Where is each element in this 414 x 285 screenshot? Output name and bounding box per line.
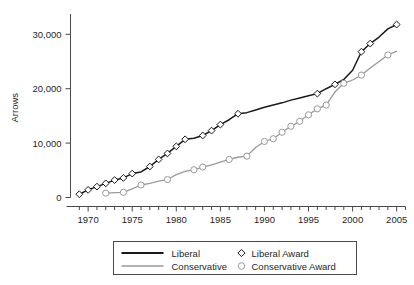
marker-liberal-award bbox=[314, 90, 321, 97]
marker-conservative-award bbox=[279, 129, 285, 135]
x-tick-label: 1975 bbox=[122, 214, 143, 225]
data-markers bbox=[76, 21, 400, 198]
marker-liberal-award bbox=[129, 170, 136, 177]
y-tick-label: 0 bbox=[56, 192, 61, 203]
data-series bbox=[79, 25, 396, 195]
legend-label: Conservative Award bbox=[252, 261, 336, 272]
marker-liberal-award bbox=[199, 132, 206, 139]
marker-conservative-award bbox=[164, 176, 170, 182]
marker-conservative-award bbox=[297, 118, 303, 124]
x-tick-label: 2000 bbox=[342, 214, 363, 225]
y-tick-label: 10,000 bbox=[32, 138, 61, 149]
chart-legend: LiberalLiberal AwardConservativeConserva… bbox=[114, 242, 357, 275]
x-axis-ticks: 19701975198019851990199520002005 bbox=[78, 207, 408, 225]
chart-container: 010,00020,00030,000 19701975198019851990… bbox=[0, 0, 414, 285]
marker-liberal-award bbox=[76, 191, 83, 198]
x-tick-label: 1985 bbox=[210, 214, 231, 225]
marker-liberal-award bbox=[332, 81, 339, 88]
marker-conservative-award bbox=[261, 138, 267, 144]
marker-conservative-award bbox=[244, 153, 250, 159]
marker-conservative-award bbox=[305, 112, 311, 118]
y-axis-title: Arrows bbox=[9, 93, 20, 123]
series-line-liberal bbox=[79, 25, 396, 195]
marker-conservative-award bbox=[358, 72, 364, 78]
marker-conservative-award bbox=[226, 156, 232, 162]
marker-liberal-award bbox=[111, 177, 118, 184]
marker-liberal-award bbox=[120, 175, 127, 182]
axes bbox=[67, 14, 406, 207]
marker-liberal-award bbox=[85, 186, 92, 193]
marker-liberal-award bbox=[94, 183, 101, 190]
marker-conservative-award bbox=[385, 52, 391, 58]
x-tick-label: 1970 bbox=[78, 214, 99, 225]
marker-conservative-award bbox=[200, 164, 206, 170]
marker-conservative-award bbox=[288, 123, 294, 129]
legend-item-conservative-award: Conservative Award bbox=[238, 261, 336, 272]
x-tick-label: 1995 bbox=[298, 214, 319, 225]
marker-conservative-award bbox=[103, 190, 109, 196]
y-axis-title-label: Arrows bbox=[9, 93, 20, 123]
marker-conservative-award bbox=[314, 106, 320, 112]
marker-liberal-award bbox=[393, 21, 400, 28]
y-axis-ticks: 010,00020,00030,000 bbox=[32, 29, 70, 203]
legend-label: Conservative bbox=[172, 261, 227, 272]
y-tick-label: 30,000 bbox=[32, 29, 61, 40]
x-tick-label: 2005 bbox=[386, 214, 407, 225]
legend-label: Liberal Award bbox=[252, 248, 309, 259]
arrows-line-chart: 010,00020,00030,000 19701975198019851990… bbox=[0, 0, 414, 285]
marker-conservative-award bbox=[138, 182, 144, 188]
x-tick-label: 1990 bbox=[254, 214, 275, 225]
marker-conservative-award bbox=[120, 189, 126, 195]
marker-conservative-award bbox=[341, 80, 347, 86]
marker-liberal-award bbox=[102, 180, 109, 187]
marker-conservative-award bbox=[191, 167, 197, 173]
marker-conservative-award bbox=[323, 102, 329, 108]
legend-label: Liberal bbox=[172, 248, 201, 259]
y-tick-label: 20,000 bbox=[32, 83, 61, 94]
legend-swatch-circle bbox=[238, 263, 245, 270]
series-line-conservative bbox=[106, 51, 397, 193]
marker-conservative-award bbox=[270, 136, 276, 142]
x-tick-label: 1980 bbox=[166, 214, 187, 225]
